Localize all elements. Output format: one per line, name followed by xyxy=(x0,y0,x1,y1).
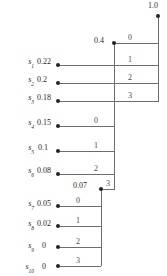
branch-label-mid-1: 1 xyxy=(94,141,98,150)
node-value-root: 1.0 xyxy=(148,1,158,10)
leaf-dot-s9 xyxy=(56,245,60,249)
branch-label-root-3: 3 xyxy=(128,91,132,100)
leaf-dot-s5 xyxy=(56,149,60,153)
branch-line-mid-1 xyxy=(58,151,114,152)
node-0-4-spine xyxy=(114,43,115,189)
branch-line-low-0 xyxy=(58,206,101,207)
probability-s4: 0.15 xyxy=(37,118,51,127)
leaf-dot-s1 xyxy=(56,63,60,67)
branch-label-low-3: 3 xyxy=(76,256,80,265)
node-dot-0-07 xyxy=(99,187,103,191)
branch-line-root-1 xyxy=(58,65,159,66)
branch-line-mid-0 xyxy=(58,126,114,127)
symbol-label-s8: s8 xyxy=(12,219,34,230)
leaf-dot-s8 xyxy=(56,224,60,228)
leaf-dot-s7 xyxy=(56,204,60,208)
branch-label-mid-2: 2 xyxy=(94,164,98,173)
probability-s5: 0.1 xyxy=(38,143,48,152)
symbol-label-s6: s6 xyxy=(12,166,34,177)
probability-s8: 0.02 xyxy=(37,219,51,228)
symbol-label-s9: s9 xyxy=(12,241,34,252)
branch-label-low-2: 2 xyxy=(76,237,80,246)
code-tree-figure: s1 s2 s3 s4 s5 s6 s7 s8 s9 s10 0.22 0.2 … xyxy=(0,0,167,276)
branch-label-low-1: 1 xyxy=(76,216,80,225)
node-0-07-spine xyxy=(101,189,102,266)
branch-line-low-3 xyxy=(58,266,101,267)
leaf-dot-s2 xyxy=(56,81,60,85)
node-dot-0-4 xyxy=(112,41,116,45)
branch-line-low-2 xyxy=(58,247,101,248)
branch-line-mid-2 xyxy=(58,174,114,175)
branch-label-root-2: 2 xyxy=(128,73,132,82)
probability-s7: 0.05 xyxy=(37,199,51,208)
probability-s10: 0 xyxy=(42,262,46,271)
probability-s9: 0 xyxy=(42,241,46,250)
branch-line-root-2 xyxy=(58,83,159,84)
root-spine xyxy=(158,16,159,101)
branch-label-low-0: 0 xyxy=(76,196,80,205)
branch-label-mid-0: 0 xyxy=(94,116,98,125)
branch-line-root-3 xyxy=(58,101,159,102)
probability-s6: 0.08 xyxy=(37,166,51,175)
probability-s3: 0.18 xyxy=(37,93,51,102)
probability-s2: 0.2 xyxy=(37,75,47,84)
branch-line-low-1 xyxy=(58,226,101,227)
leaf-dot-s10 xyxy=(56,264,60,268)
symbol-label-s7: s7 xyxy=(12,199,34,210)
node-dot-root xyxy=(156,14,160,18)
leaf-dot-s6 xyxy=(56,172,60,176)
symbol-label-s5: s5 xyxy=(12,143,34,154)
branch-line-mid-3 xyxy=(101,189,115,190)
symbol-label-s1: s1 xyxy=(12,57,34,68)
leaf-dot-s4 xyxy=(56,124,60,128)
probability-s1: 0.22 xyxy=(37,57,51,66)
symbol-label-s4: s4 xyxy=(12,118,34,129)
node-value-0-07: 0.07 xyxy=(73,181,87,190)
branch-label-root-1: 1 xyxy=(128,55,132,64)
branch-label-mid-3: 3 xyxy=(106,179,110,188)
branch-label-root-0: 0 xyxy=(128,33,132,42)
symbol-label-s10: s10 xyxy=(8,262,34,273)
branch-line-root-0 xyxy=(114,43,159,44)
node-value-0-4: 0.4 xyxy=(94,36,104,45)
leaf-dot-s3 xyxy=(56,99,60,103)
symbol-label-s3: s3 xyxy=(12,93,34,104)
symbol-label-s2: s2 xyxy=(12,75,34,86)
